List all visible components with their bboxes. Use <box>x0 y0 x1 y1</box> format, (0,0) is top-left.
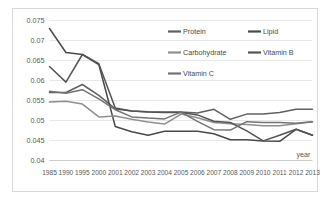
x-axis-tick-label: 2010 <box>256 169 271 176</box>
x-axis-tick-label: 2009 <box>239 169 254 176</box>
legend-label-lipid: Lipid <box>263 27 278 36</box>
x-axis-tick-label: 2013 <box>305 169 320 176</box>
legend-label-vitamin-c: Vitamin C <box>183 69 214 78</box>
y-axis-tick-label: 0.055 <box>27 96 45 105</box>
y-axis-tick-label: 0.05 <box>31 116 45 125</box>
series-line-vitamin-b <box>50 55 313 141</box>
y-axis-tick-label: 0.04 <box>31 156 45 165</box>
x-axis-tick-label: 2001 <box>108 169 123 176</box>
y-axis-ticks: 0.0750.070.0650.060.0550.050.0450.04 <box>27 16 45 165</box>
y-axis-tick-label: 0.07 <box>31 36 45 45</box>
x-axis-tick-label: 2003 <box>141 169 156 176</box>
series-lines <box>50 29 313 142</box>
x-axis-tick-label: 2008 <box>223 169 238 176</box>
chart-legend: ProteinLipidCarbohydrateVitamin BVitamin… <box>168 27 294 78</box>
y-axis-tick-label: 0.045 <box>27 136 45 145</box>
x-axis-tick-label: 2011 <box>273 169 288 176</box>
y-axis-tick-label: 0.06 <box>31 76 45 85</box>
series-line-lipid <box>50 29 313 142</box>
x-axis-tick-label: 2012 <box>289 169 304 176</box>
y-axis-tick-label: 0.065 <box>27 56 45 65</box>
line-chart: 0.0750.070.0650.060.0550.050.0450.04 198… <box>0 0 334 212</box>
x-axis-title: year <box>297 150 312 159</box>
chart-plot-area: 0.0750.070.0650.060.0550.050.0450.04 198… <box>0 0 334 212</box>
legend-label-vitamin-b: Vitamin B <box>263 48 294 57</box>
x-axis-tick-label: 1990 <box>59 169 74 176</box>
x-axis-tick-label: 2007 <box>207 169 222 176</box>
x-axis-ticks: 1985199019952000200120022003200420052006… <box>42 169 320 176</box>
x-axis-tick-label: 2005 <box>174 169 189 176</box>
x-axis-tick-label: 2006 <box>190 169 205 176</box>
gridlines <box>50 21 313 161</box>
y-axis-tick-label: 0.075 <box>27 16 45 25</box>
x-axis-tick-label: 2002 <box>124 169 139 176</box>
x-axis-tick-label: 2000 <box>91 169 106 176</box>
x-axis-tick-label: 1985 <box>42 169 57 176</box>
x-axis-tick-label: 1995 <box>75 169 90 176</box>
legend-label-protein: Protein <box>183 27 206 36</box>
x-axis-tick-label: 2004 <box>157 169 172 176</box>
legend-label-carbohydrate: Carbohydrate <box>183 48 227 57</box>
